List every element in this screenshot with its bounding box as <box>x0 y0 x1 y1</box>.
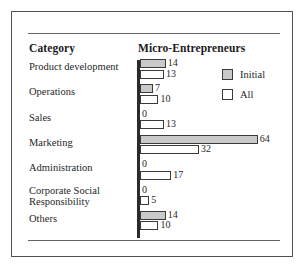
bar-value-label: 64 <box>260 133 270 145</box>
bar-value-label: 7 <box>155 82 160 94</box>
bar-all[interactable]: 10 <box>140 95 158 104</box>
category-label: Operations <box>29 86 133 98</box>
bar-all[interactable]: 17 <box>140 171 171 180</box>
category-label: Product development <box>29 61 133 73</box>
legend-label: Initial <box>240 68 265 81</box>
footer-divider-bottom <box>28 240 280 241</box>
bar-value-label: 0 <box>142 184 147 196</box>
category-label: Administration <box>29 162 133 174</box>
bar-value-label: 10 <box>160 93 170 105</box>
category-label-line2: Responsibility <box>29 196 90 207</box>
bar-all[interactable]: 5 <box>140 196 149 205</box>
category-column-header: Category <box>29 42 75 54</box>
category-label: Corporate SocialResponsibility <box>29 185 133 208</box>
bar-rect-all <box>140 70 164 79</box>
legend-swatch-all-icon <box>222 89 233 100</box>
bar-rect-all <box>140 196 149 205</box>
bar-value-label: 0 <box>142 158 147 170</box>
bar-value-label: 5 <box>151 194 156 206</box>
bar-initial[interactable]: 0 <box>140 160 141 169</box>
bar-initial[interactable]: 7 <box>140 84 153 93</box>
series-column-header: Micro-Entrepreneurs <box>138 42 245 54</box>
legend-swatch-initial-icon <box>222 69 233 80</box>
bar-all[interactable]: 13 <box>140 120 164 129</box>
chart-plate: Category Micro-Entrepreneurs Product dev… <box>12 12 292 256</box>
bar-all[interactable]: 13 <box>140 70 164 79</box>
bar-rect-all <box>140 95 158 104</box>
bar-all[interactable]: 32 <box>140 145 199 154</box>
bar-value-label: 0 <box>142 108 147 120</box>
bar-value-label: 32 <box>201 143 211 155</box>
category-label: Others <box>29 213 133 225</box>
bar-rect-initial <box>140 84 153 93</box>
bar-value-label: 10 <box>160 219 170 231</box>
bar-initial[interactable]: 0 <box>140 110 141 119</box>
plot-area: Product development1413Operations710Sale… <box>12 58 292 240</box>
bar-rect-all <box>140 171 171 180</box>
header-divider-top <box>28 33 280 34</box>
bar-rect-all <box>140 145 199 154</box>
bar-rect-all <box>140 221 158 230</box>
bar-value-label: 13 <box>166 118 176 130</box>
figure-frame: Category Micro-Entrepreneurs Product dev… <box>11 11 293 257</box>
bar-rect-initial <box>140 59 166 68</box>
bar-all[interactable]: 10 <box>140 221 158 230</box>
bar-initial[interactable]: 14 <box>140 59 166 68</box>
bar-initial[interactable]: 0 <box>140 186 141 195</box>
bar-initial[interactable]: 64 <box>140 135 258 144</box>
bar-rect-all <box>140 120 164 129</box>
category-label: Marketing <box>29 137 133 149</box>
bar-value-label: 13 <box>166 68 176 80</box>
bar-value-label: 17 <box>173 169 183 181</box>
bar-rect-initial <box>140 135 258 144</box>
category-label: Sales <box>29 112 133 124</box>
legend-label: All <box>240 88 253 101</box>
